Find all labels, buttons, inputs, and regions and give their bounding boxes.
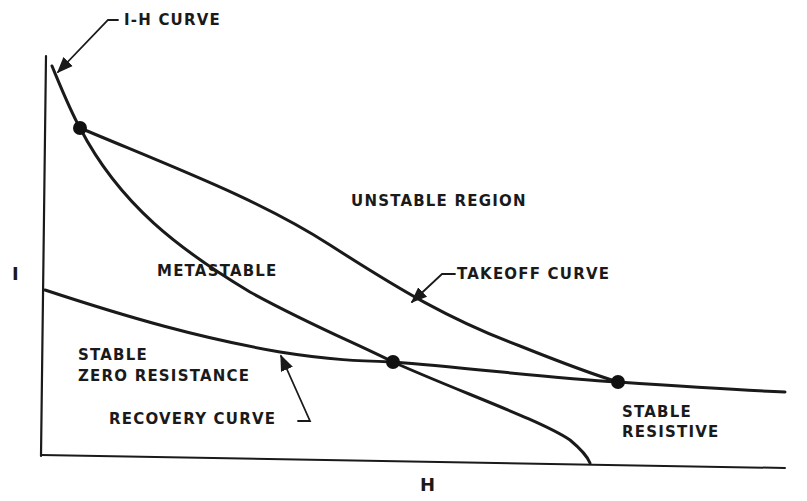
- takeoff-curve: [80, 128, 618, 382]
- stable-resistive-label-line1: STABLE: [622, 403, 692, 422]
- metastable-label: METASTABLE: [157, 262, 278, 281]
- stable-zero-resistance-label-line2: ZERO RESISTANCE: [78, 367, 250, 386]
- stable-resistive-label-line2: RESISTIVE: [622, 423, 719, 442]
- ih-curve-leader: [58, 20, 118, 72]
- diagram-canvas: I-H CURVE UNSTABLE REGION METASTABLE TAK…: [0, 0, 807, 501]
- x-axis: [41, 455, 785, 468]
- takeoff-curve-label: TAKEOFF CURVE: [457, 265, 610, 284]
- intersection-dot-right: [611, 375, 625, 389]
- stable-zero-resistance-label-line1: STABLE: [78, 346, 148, 365]
- ih-curve-label: I-H CURVE: [124, 11, 221, 30]
- recovery-curve-leader: [281, 356, 310, 421]
- intersection-dot-middle: [386, 355, 400, 369]
- y-axis: [41, 56, 46, 456]
- unstable-region-label: UNSTABLE REGION: [351, 192, 527, 211]
- y-axis-label: I: [12, 264, 19, 283]
- recovery-curve-label: RECOVERY CURVE: [109, 410, 276, 429]
- x-axis-label: H: [420, 475, 435, 494]
- intersection-dot-top: [73, 121, 87, 135]
